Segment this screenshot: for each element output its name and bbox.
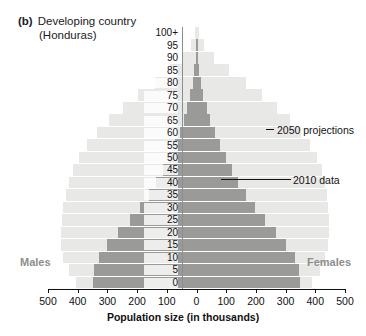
- bar-female-data-80: [197, 77, 201, 89]
- x-tick-mark: [78, 289, 79, 293]
- projections-leader-line: [266, 129, 274, 130]
- panel-title-line1: Developing country: [38, 15, 136, 27]
- x-tick-label-6: 100: [211, 295, 241, 307]
- bar-female-data-60: [197, 127, 215, 139]
- bar-female-data-25: [197, 214, 265, 226]
- annotation-2010-data: 2010 data: [293, 174, 340, 186]
- age-tick-75: 75: [144, 91, 178, 101]
- females-label: Females: [307, 256, 351, 268]
- age-axis: 0510152025303540455055606570758085909510…: [140, 27, 178, 289]
- pyramid-row: [48, 152, 345, 164]
- x-tick-mark: [256, 289, 257, 293]
- age-tick-50: 50: [144, 153, 178, 163]
- age-tick-10: 10: [144, 253, 178, 263]
- pyramid-row: [48, 277, 345, 289]
- age-tick-0: 0: [144, 278, 178, 288]
- bar-female-data-5: [197, 264, 299, 276]
- age-tick-70: 70: [144, 103, 178, 113]
- bar-female-data-35: [197, 189, 246, 201]
- plot-area: [48, 27, 345, 289]
- bar-male-proj-90: [183, 52, 196, 64]
- age-tick-90: 90: [144, 53, 178, 63]
- bar-female-data-0: [197, 277, 301, 289]
- bar-female-proj-75: [197, 89, 263, 101]
- x-tick-mark: [286, 289, 287, 293]
- pyramid-row: [48, 89, 345, 101]
- center-axis-line: [182, 27, 183, 289]
- x-tick-label-1: 400: [63, 295, 93, 307]
- bar-male-data-65: [184, 114, 197, 126]
- bar-female-proj-100+: [197, 27, 199, 39]
- x-tick-label-10: 500: [330, 295, 360, 307]
- bar-female-data-55: [197, 139, 220, 151]
- bar-male-data-70: [187, 102, 196, 114]
- pyramid-row: [48, 102, 345, 114]
- x-tick-mark: [167, 289, 168, 293]
- pyramid-row: [48, 252, 345, 264]
- age-tick-85: 85: [144, 66, 178, 76]
- x-tick-label-7: 200: [241, 295, 271, 307]
- population-pyramid-chart: (b)Developing country (Honduras) 0510152…: [0, 0, 366, 336]
- age-tick-80: 80: [144, 78, 178, 88]
- age-tick-95: 95: [144, 41, 178, 51]
- pyramid-row: [48, 77, 345, 89]
- age-tick-65: 65: [144, 116, 178, 126]
- x-tick-mark: [48, 289, 49, 293]
- x-tick-label-3: 200: [122, 295, 152, 307]
- pyramid-row: [48, 264, 345, 276]
- bar-male-data-55: [175, 139, 197, 151]
- age-tick-55: 55: [144, 141, 178, 151]
- age-tick-15: 15: [144, 240, 178, 250]
- age-tick-35: 35: [144, 190, 178, 200]
- age-tick-5: 5: [144, 265, 178, 275]
- age-tick-45: 45: [144, 165, 178, 175]
- bar-female-data-10: [197, 252, 295, 264]
- bar-female-data-50: [197, 152, 226, 164]
- pyramid-row: [48, 52, 345, 64]
- pyramid-row: [48, 227, 345, 239]
- x-tick-label-8: 300: [271, 295, 301, 307]
- x-tick-mark: [107, 289, 108, 293]
- x-tick-mark: [315, 289, 316, 293]
- bar-female-proj-90: [197, 52, 215, 64]
- pyramid-row: [48, 64, 345, 76]
- x-tick-label-0: 500: [33, 295, 63, 307]
- bar-female-data-15: [197, 239, 287, 251]
- pyramid-row: [48, 39, 345, 51]
- pyramid-row: [48, 139, 345, 151]
- x-tick-mark: [137, 289, 138, 293]
- bar-female-data-65: [197, 114, 211, 126]
- x-tick-label-4: 100: [152, 295, 182, 307]
- bar-female-data-45: [197, 164, 232, 176]
- x-tick-mark: [345, 289, 346, 293]
- age-tick-60: 60: [144, 128, 178, 138]
- bar-female-data-75: [197, 89, 204, 101]
- bar-female-proj-80: [197, 77, 246, 89]
- pyramid-row: [48, 214, 345, 226]
- panel-tag: (b): [18, 15, 33, 27]
- annotation-2050-projections: 2050 projections: [277, 124, 354, 136]
- age-tick-100+: 100+: [144, 28, 178, 38]
- x-tick-mark: [197, 289, 198, 293]
- x-tick-label-9: 400: [300, 295, 330, 307]
- bar-female-data-90: [197, 52, 198, 64]
- x-tick-label-2: 300: [92, 295, 122, 307]
- age-tick-25: 25: [144, 215, 178, 225]
- bar-female-proj-70: [197, 102, 278, 114]
- age-tick-20: 20: [144, 228, 178, 238]
- age-tick-40: 40: [144, 178, 178, 188]
- males-label: Males: [20, 256, 51, 268]
- x-axis-title: Population size (in thousands): [0, 311, 366, 323]
- bar-female-proj-85: [197, 64, 230, 76]
- data-leader-line: [221, 179, 291, 180]
- bar-female-data-20: [197, 227, 277, 239]
- pyramid-row: [48, 189, 345, 201]
- age-tick-30: 30: [144, 203, 178, 213]
- bar-female-data-70: [197, 102, 207, 114]
- pyramid-row: [48, 239, 345, 251]
- x-tick-label-5: 0: [182, 295, 212, 307]
- bar-female-data-85: [197, 64, 199, 76]
- pyramid-row: [48, 27, 345, 39]
- bar-female-data-30: [197, 202, 255, 214]
- x-tick-mark: [226, 289, 227, 293]
